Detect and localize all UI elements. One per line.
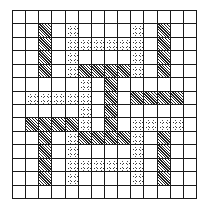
grid-cell-empty — [25, 131, 38, 144]
grid-cell-empty — [12, 23, 25, 36]
grid-cell-empty — [12, 171, 25, 184]
grid-cell-empty — [12, 64, 25, 77]
grid-cell-empty — [183, 23, 196, 36]
grid-cell-dotted — [91, 37, 104, 50]
grid-cell-empty — [170, 50, 183, 63]
grid-cell-empty — [183, 77, 196, 90]
grid-cell-hatched — [157, 171, 170, 184]
grid-cell-empty — [91, 185, 104, 198]
grid-cell-empty — [91, 23, 104, 36]
grid-cell-empty — [78, 10, 91, 23]
grid-cell-empty — [183, 37, 196, 50]
grid-cell-dotted — [65, 50, 78, 63]
grid-cell-dotted — [65, 64, 78, 77]
grid-cell-empty — [170, 144, 183, 157]
grid-cell-hatched — [25, 117, 38, 130]
grid-cell-dotted — [170, 117, 183, 130]
grid-cell-dotted — [65, 131, 78, 144]
grid-cell-empty — [25, 185, 38, 198]
grid-cell-hatched — [157, 64, 170, 77]
grid-cell-empty — [117, 104, 130, 117]
grid-cell-empty — [12, 10, 25, 23]
grid-cell-hatched — [38, 64, 51, 77]
grid-cell-empty — [25, 50, 38, 63]
grid-cell-empty — [25, 10, 38, 23]
grid-cell-hatched — [78, 131, 91, 144]
grid-cell-dotted — [65, 158, 78, 171]
grid-cell-empty — [183, 50, 196, 63]
grid-cell-dotted — [130, 131, 143, 144]
grid-cell-hatched — [38, 144, 51, 157]
grid-cell-hatched — [157, 144, 170, 157]
grid-cell-empty — [51, 64, 64, 77]
grid-cell-dotted — [130, 117, 143, 130]
grid-cell-empty — [12, 144, 25, 157]
grid-cell-empty — [143, 104, 156, 117]
grid-cell-hatched — [157, 131, 170, 144]
grid-cell-empty — [170, 104, 183, 117]
grid-cell-dotted — [130, 23, 143, 36]
grid-cell-empty — [143, 23, 156, 36]
grid-cell-empty — [38, 77, 51, 90]
grid-cell-empty — [51, 144, 64, 157]
grid-cell-empty — [183, 91, 196, 104]
grid-cell-empty — [51, 131, 64, 144]
grid-cell-empty — [25, 104, 38, 117]
grid-cell-empty — [117, 23, 130, 36]
grid-cell-hatched — [104, 131, 117, 144]
grid-cell-empty — [91, 144, 104, 157]
grid-cell-dotted — [117, 158, 130, 171]
grid-cell-empty — [51, 158, 64, 171]
grid-cell-hatched — [91, 64, 104, 77]
grid-cell-empty — [78, 23, 91, 36]
grid-cell-empty — [157, 77, 170, 90]
grid-cell-hatched — [38, 131, 51, 144]
grid-cell-empty — [143, 10, 156, 23]
grid-cell-dotted — [65, 23, 78, 36]
grid-cell-empty — [12, 131, 25, 144]
grid-cell-dotted — [25, 91, 38, 104]
grid-cell-hatched — [117, 131, 130, 144]
grid-cell-hatched — [38, 50, 51, 63]
grid-cell-dotted — [78, 91, 91, 104]
grid-cell-empty — [12, 77, 25, 90]
grid-cell-empty — [143, 171, 156, 184]
grid-cell-hatched — [38, 158, 51, 171]
grid-cell-empty — [12, 50, 25, 63]
grid-cell-empty — [183, 144, 196, 157]
grid-cell-empty — [104, 50, 117, 63]
grid-cell-dotted — [78, 77, 91, 90]
grid-cell-hatched — [38, 23, 51, 36]
grid-cell-empty — [51, 104, 64, 117]
grid-cell-empty — [183, 64, 196, 77]
grid-cell-empty — [183, 185, 196, 198]
grid-cell-empty — [65, 185, 78, 198]
grid-cell-empty — [25, 171, 38, 184]
grid-cell-empty — [12, 37, 25, 50]
grid-cell-empty — [38, 10, 51, 23]
grid-cell-empty — [65, 77, 78, 90]
grid-cell-empty — [25, 23, 38, 36]
grid-cell-empty — [38, 104, 51, 117]
grid-cell-hatched — [38, 171, 51, 184]
grid-cell-empty — [117, 117, 130, 130]
grid-cell-empty — [117, 91, 130, 104]
grid-cell-empty — [143, 64, 156, 77]
grid-cell-empty — [143, 185, 156, 198]
grid-cell-empty — [130, 10, 143, 23]
grid-cell-empty — [117, 77, 130, 90]
grid-cell-empty — [51, 10, 64, 23]
grid-cell-hatched — [104, 77, 117, 90]
grid-cell-empty — [170, 171, 183, 184]
grid-cell-empty — [117, 171, 130, 184]
grid-cell-dotted — [104, 158, 117, 171]
grid-cell-dotted — [130, 144, 143, 157]
grid-cell-empty — [91, 50, 104, 63]
grid-cell-empty — [104, 144, 117, 157]
grid-cell-empty — [143, 144, 156, 157]
grid-cell-empty — [170, 131, 183, 144]
grid-cell-dotted — [104, 37, 117, 50]
grid-cell-dotted — [78, 158, 91, 171]
grid-cell-empty — [12, 185, 25, 198]
grid-cell-dotted — [117, 37, 130, 50]
